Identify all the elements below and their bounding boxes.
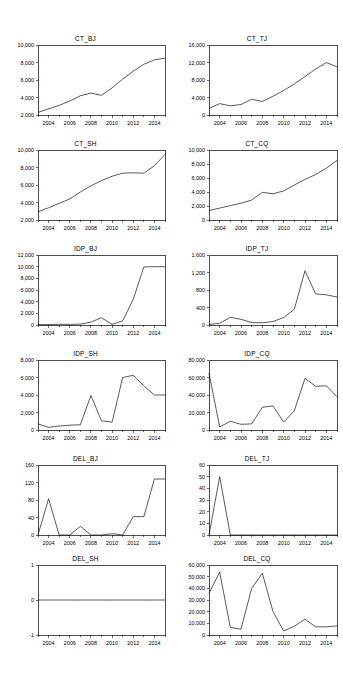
chart-panel-ct-sh[interactable]: CT_SH 2,0004,0006,0008,00010,00020042006… [0, 139, 171, 244]
svg-text:2008: 2008 [85, 225, 97, 231]
svg-text:8,000: 8,000 [21, 357, 35, 363]
chart-plot[interactable]: 04080120160200420062008201020122014 [0, 461, 171, 553]
chart-panel-ct-bj[interactable]: CT_BJ 2,0004,0006,0008,00010,00020042006… [0, 34, 171, 139]
chart-panel-ct-cq[interactable]: CT_CQ 02,0004,0006,0008,00010,0002004200… [171, 139, 343, 244]
chart-panel-idp-cq[interactable]: IDP_CQ 020,00040,00060,00080,00020042006… [171, 349, 343, 454]
svg-text:2014: 2014 [320, 640, 332, 646]
svg-text:2010: 2010 [106, 540, 118, 546]
svg-text:2014: 2014 [320, 225, 332, 231]
svg-text:2006: 2006 [64, 435, 76, 441]
svg-text:0: 0 [202, 217, 205, 223]
svg-text:50: 50 [199, 474, 205, 480]
svg-text:2,000: 2,000 [21, 112, 35, 118]
svg-text:4,000: 4,000 [21, 95, 35, 101]
chart-plot[interactable]: 04,0008,00012,00016,00020042006200820102… [171, 41, 343, 133]
chart-panel-idp-bj[interactable]: IDP_BJ 02,0004,0006,0008,00010,00012,000… [0, 244, 171, 349]
svg-text:10,000: 10,000 [18, 42, 35, 48]
svg-text:160: 160 [25, 462, 34, 468]
svg-text:2010: 2010 [106, 640, 118, 646]
svg-text:4,000: 4,000 [192, 189, 206, 195]
svg-text:2006: 2006 [235, 330, 247, 336]
svg-text:2014: 2014 [148, 640, 160, 646]
chart-plot[interactable]: 02,0004,0006,0008,0002004200620082010201… [0, 356, 171, 448]
svg-text:30,000: 30,000 [189, 597, 206, 603]
svg-text:2004: 2004 [214, 120, 226, 126]
svg-text:120: 120 [25, 480, 34, 486]
chart-panel-ct-tj[interactable]: CT_TJ 04,0008,00012,00016,00020042006200… [171, 34, 343, 139]
chart-panel-del-cq[interactable]: DEL_CQ 010,00020,00030,00040,00050,00060… [171, 554, 343, 669]
chart-plot[interactable]: 020,00040,00060,00080,000200420062008201… [171, 356, 343, 448]
chart-panel-del-bj[interactable]: DEL_BJ 040801201602004200620082010201220… [0, 454, 171, 554]
svg-text:2004: 2004 [43, 120, 55, 126]
svg-text:40,000: 40,000 [189, 392, 206, 398]
svg-text:2014: 2014 [320, 330, 332, 336]
svg-text:2012: 2012 [299, 225, 311, 231]
svg-text:12,000: 12,000 [189, 60, 206, 66]
svg-text:2006: 2006 [64, 640, 76, 646]
svg-text:2012: 2012 [127, 435, 139, 441]
svg-text:40,000: 40,000 [189, 585, 206, 591]
svg-text:2012: 2012 [299, 435, 311, 441]
svg-text:2014: 2014 [148, 540, 160, 546]
svg-text:2014: 2014 [320, 120, 332, 126]
svg-text:4,000: 4,000 [21, 200, 35, 206]
svg-text:60,000: 60,000 [189, 562, 206, 568]
svg-text:2,000: 2,000 [192, 203, 206, 209]
top-margin [0, 0, 343, 34]
svg-text:8,000: 8,000 [21, 165, 35, 171]
svg-text:2008: 2008 [256, 225, 268, 231]
svg-text:-1: -1 [29, 632, 34, 638]
svg-text:2004: 2004 [43, 540, 55, 546]
svg-text:2010: 2010 [106, 435, 118, 441]
chart-plot[interactable]: 2,0004,0006,0008,00010,00020042006200820… [0, 41, 171, 133]
svg-text:8,000: 8,000 [21, 60, 35, 66]
svg-text:0: 0 [202, 427, 205, 433]
svg-text:2014: 2014 [320, 540, 332, 546]
svg-text:2004: 2004 [214, 640, 226, 646]
svg-text:2006: 2006 [235, 120, 247, 126]
svg-text:12,000: 12,000 [18, 252, 35, 258]
svg-text:2012: 2012 [127, 120, 139, 126]
chart-panel-idp-sh[interactable]: IDP_SH 02,0004,0006,0008,000200420062008… [0, 349, 171, 454]
svg-text:2010: 2010 [278, 225, 290, 231]
svg-text:2,000: 2,000 [21, 217, 35, 223]
svg-text:0: 0 [31, 597, 34, 603]
svg-text:2008: 2008 [85, 120, 97, 126]
svg-text:8,000: 8,000 [192, 77, 206, 83]
chart-panel-del-tj[interactable]: DEL_TJ 010203040506020042006200820102012… [171, 454, 343, 554]
svg-text:1,200: 1,200 [192, 270, 206, 276]
svg-text:400: 400 [196, 305, 205, 311]
chart-plot[interactable]: 04008001,2001,60020042006200820102012201… [171, 251, 343, 343]
chart-plot[interactable]: 010,00020,00030,00040,00050,00060,000200… [171, 561, 343, 653]
svg-text:2012: 2012 [127, 330, 139, 336]
svg-text:6,000: 6,000 [21, 182, 35, 188]
svg-text:8,000: 8,000 [192, 161, 206, 167]
svg-text:2006: 2006 [64, 120, 76, 126]
svg-text:30: 30 [199, 497, 205, 503]
svg-text:10,000: 10,000 [18, 264, 35, 270]
svg-text:2008: 2008 [85, 640, 97, 646]
chart-plot[interactable]: 2,0004,0006,0008,00010,00020042006200820… [0, 146, 171, 238]
chart-plot[interactable]: 02,0004,0006,0008,00010,0002004200620082… [171, 146, 343, 238]
svg-text:800: 800 [196, 287, 205, 293]
svg-text:2008: 2008 [256, 120, 268, 126]
svg-text:60,000: 60,000 [189, 375, 206, 381]
chart-plot[interactable]: 02,0004,0006,0008,00010,00012,0002004200… [0, 251, 171, 343]
chart-plot[interactable]: -101200420062008201020122014 [0, 561, 171, 653]
svg-text:20: 20 [199, 509, 205, 515]
svg-text:16,000: 16,000 [189, 42, 206, 48]
svg-text:2006: 2006 [64, 225, 76, 231]
svg-text:4,000: 4,000 [192, 95, 206, 101]
svg-text:2,000: 2,000 [21, 410, 35, 416]
svg-text:2010: 2010 [106, 225, 118, 231]
svg-text:1: 1 [31, 562, 34, 568]
svg-text:50,000: 50,000 [189, 574, 206, 580]
svg-text:2010: 2010 [106, 330, 118, 336]
svg-text:2014: 2014 [148, 225, 160, 231]
chart-panel-idp-tj[interactable]: IDP_TJ 04008001,2001,6002004200620082010… [171, 244, 343, 349]
svg-text:2012: 2012 [127, 225, 139, 231]
svg-text:2012: 2012 [299, 640, 311, 646]
chart-panel-del-sh[interactable]: DEL_SH -101200420062008201020122014 [0, 554, 171, 669]
chart-plot[interactable]: 0102030405060200420062008201020122014 [171, 461, 343, 553]
svg-text:0: 0 [31, 427, 34, 433]
